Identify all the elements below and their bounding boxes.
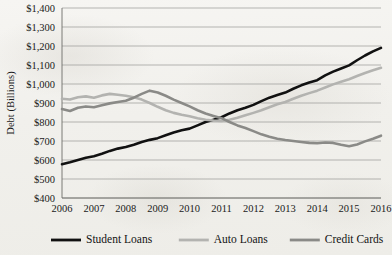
legend-item-student-loans[interactable]: Student Loans [51,233,153,245]
y-axis-title: Debt (Billions) [5,71,17,135]
x-tick-label: 2015 [339,203,360,214]
x-tick-label: 2007 [83,203,104,214]
x-tick-label: 2014 [307,203,329,214]
y-tick-label: $1,000 [26,79,55,90]
y-tick-label: $600 [34,155,55,166]
series-line-auto-loans [62,68,381,121]
x-axis-tick-labels: 2006200720082009201020112012201320142015… [52,203,392,214]
y-tick-label: $500 [34,174,55,185]
y-tick-label: $1,100 [26,60,55,71]
debt-line-chart: $1,400$1,300$1,200$1,100$1,000$900$800$7… [0,0,392,255]
y-tick-label: $900 [34,98,55,109]
x-tick-label: 2006 [52,203,73,214]
x-tick-label: 2008 [115,203,136,214]
chart-canvas: $1,400$1,300$1,200$1,100$1,000$900$800$7… [0,0,392,255]
x-tick-label: 2012 [243,203,264,214]
x-tick-label: 2013 [275,203,296,214]
x-tick-label: 2010 [179,203,200,214]
y-tick-label: $1,300 [26,22,55,33]
y-tick-label: $1,200 [26,41,55,52]
legend-label: Student Loans [86,233,153,245]
x-tick-label: 2009 [147,203,168,214]
y-tick-label: $400 [34,193,55,204]
y-tick-label: $800 [34,117,55,128]
y-tick-label: $700 [34,136,55,147]
chart-legend: Student LoansAuto LoansCredit Cards [51,233,384,245]
legend-label: Credit Cards [325,233,384,245]
legend-item-credit-cards[interactable]: Credit Cards [290,233,384,245]
series-line-credit-cards [62,91,381,147]
y-axis-tick-labels: $1,400$1,300$1,200$1,100$1,000$900$800$7… [26,3,55,204]
y-axis-title-text: Debt (Billions) [5,71,17,135]
y-tick-label: $1,400 [26,3,55,14]
legend-label: Auto Loans [214,233,269,245]
x-tick-label: 2016 [371,203,392,214]
x-tick-label: 2011 [211,203,232,214]
legend-item-auto-loans[interactable]: Auto Loans [179,233,269,245]
